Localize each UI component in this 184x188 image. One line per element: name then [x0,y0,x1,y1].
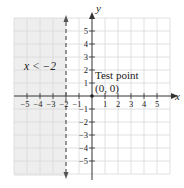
x-tick-label: −2 [59,99,68,109]
x-tick-label: −5 [20,99,29,109]
x-tick-label: 1 [103,99,107,109]
x-tick-label: −3 [46,99,55,109]
x-tick-labels: −5 −4 −3 −2 −1 1 2 3 4 5 [20,99,159,109]
test-point-marker [90,94,94,98]
y-tick-label: −3 [79,130,88,140]
x-tick-label: 3 [129,99,133,109]
y-axis-label: y [95,2,101,14]
y-tick-label: 3 [84,52,88,62]
y-tick-label: 5 [84,26,88,36]
x-tick-label: 4 [142,99,147,109]
test-point-title: Test point [95,69,139,81]
y-tick-label: −2 [79,117,88,127]
y-tick-label: 2 [84,65,88,75]
x-axis-label: x [174,90,180,102]
x-tick-label: 5 [155,99,159,109]
y-axis-arrow-icon [89,12,95,19]
x-tick-label: −4 [33,99,43,109]
y-tick-label: −1 [79,104,88,114]
y-tick-label: 1 [84,78,88,88]
x-tick-label: 2 [116,99,120,109]
test-point-coords: (0, 0) [95,82,119,95]
y-tick-label: −4 [79,143,89,153]
y-tick-label: −5 [79,156,88,166]
region-label: x < −2 [23,60,56,72]
coordinate-plane: x y −5 −4 −3 −2 −1 1 2 3 4 5 5 4 3 2 1 −… [0,0,184,188]
